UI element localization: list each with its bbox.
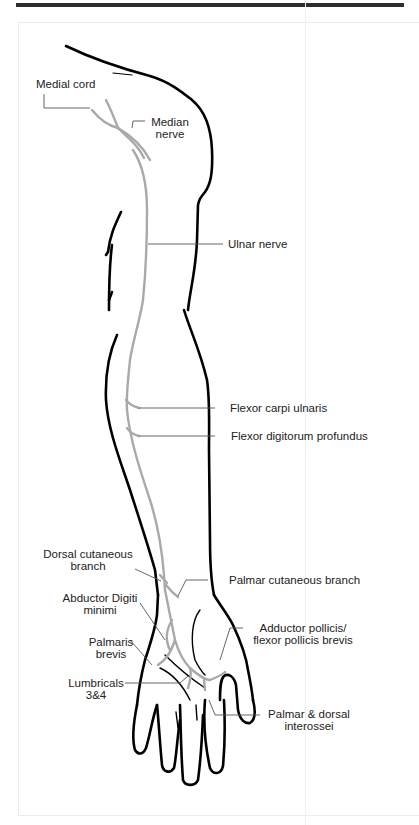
label-medial-cord: Medial cord [36, 78, 95, 90]
label-adductor-pollicis-line1: Adductor pollicis/ [250, 622, 356, 634]
arm-outline [66, 46, 255, 785]
label-interossei-line1: Palmar & dorsal [264, 708, 354, 720]
label-lumbricals-line2: 3&4 [66, 689, 126, 701]
label-palmar-cutaneous-branch: Palmar cutaneous branch [229, 574, 360, 586]
label-adductor-pollicis: Adductor pollicis/ flexor pollicis brevi… [250, 622, 356, 646]
label-abductor-digiti-line1: Abductor Digiti [58, 592, 142, 604]
label-abductor-digiti-line2: minimi [58, 604, 142, 616]
label-adductor-pollicis-line2: flexor pollicis brevis [250, 634, 356, 646]
label-lumbricals-line1: Lumbricals [66, 677, 126, 689]
label-dorsal-cutaneous-branch: Dorsal cutaneous branch [40, 548, 136, 572]
label-flexor-carpi-ulnaris: Flexor carpi ulnaris [230, 402, 327, 414]
leader-lines [44, 94, 260, 715]
label-palmaris-brevis-line1: Palmaris [86, 636, 136, 648]
label-palmaris-brevis-line2: brevis [86, 648, 136, 660]
label-palmaris-brevis: Palmaris brevis [86, 636, 136, 660]
label-dorsal-cutaneous-line1: Dorsal cutaneous [40, 548, 136, 560]
label-ulnar-nerve: Ulnar nerve [228, 238, 287, 250]
label-flexor-digitorum-profundus: Flexor digitorum profundus [231, 430, 368, 442]
label-dorsal-cutaneous-line2: branch [40, 560, 136, 572]
label-lumbricals: Lumbricals 3&4 [66, 677, 126, 701]
label-interossei-line2: interossei [264, 720, 354, 732]
label-palmar-dorsal-interossei: Palmar & dorsal interossei [264, 708, 354, 732]
label-abductor-digiti-minimi: Abductor Digiti minimi [58, 592, 142, 616]
label-median-nerve: Median nerve [148, 116, 192, 140]
label-median-nerve-line2: nerve [148, 128, 192, 140]
label-median-nerve-line1: Median [148, 116, 192, 128]
